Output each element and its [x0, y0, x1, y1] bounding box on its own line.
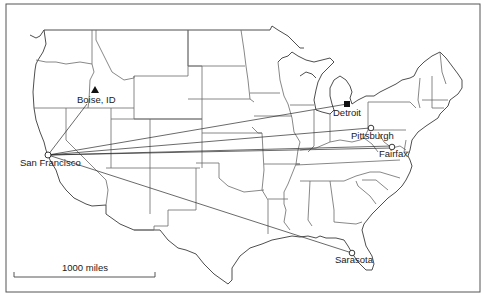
boise-triangle-icon	[91, 86, 99, 93]
us-route-map: Boise, ID San Francisco Detroit Pittsbur…	[0, 0, 485, 301]
label-fairfax: Fairfax	[379, 148, 408, 159]
city-labels: Boise, ID San Francisco Detroit Pittsbur…	[20, 94, 408, 265]
label-pittsburgh: Pittsburgh	[351, 130, 394, 141]
label-san-francisco: San Francisco	[20, 157, 81, 168]
route-sf-detroit	[48, 104, 347, 155]
label-boise: Boise, ID	[77, 94, 116, 105]
scale-bar: 1000 miles	[14, 262, 155, 277]
map-frame	[6, 4, 480, 292]
label-detroit: Detroit	[333, 107, 361, 118]
route-sf-boise	[48, 104, 87, 155]
label-sarasota: Sarasota	[335, 254, 374, 265]
scale-bar-label: 1000 miles	[62, 262, 108, 273]
route-sf-sarasota	[48, 155, 352, 253]
